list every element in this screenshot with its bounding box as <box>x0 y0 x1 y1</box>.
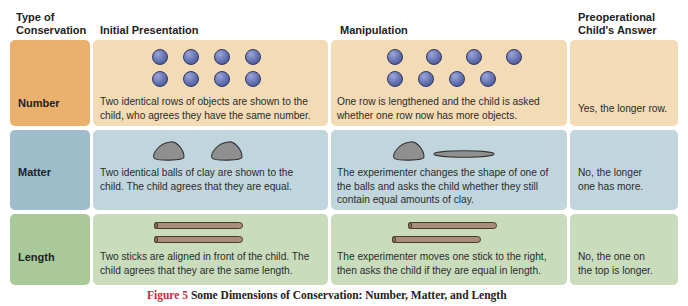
text-line: child agrees that they are the same leng… <box>100 264 309 278</box>
ball-icon <box>183 49 199 65</box>
answer-text-matter: No, the longer one has more. <box>578 166 643 193</box>
ball-icon <box>387 71 403 87</box>
text-line: child, who agrees they have the same num… <box>100 109 311 123</box>
text-line: No, the one on <box>578 250 653 264</box>
header-type-line1: Type of <box>16 11 86 24</box>
ball-icon <box>214 71 230 87</box>
text-line: the top is longer. <box>578 264 653 278</box>
manipulation-text-length: The experimenter moves one stick to the … <box>337 250 547 277</box>
ball-icon <box>245 71 261 87</box>
stick-icon <box>392 236 481 243</box>
text-line: contain equal amounts of clay. <box>337 193 548 207</box>
ball-icon <box>506 49 522 65</box>
clay-balls-initial-icon <box>150 137 260 162</box>
ball-icon <box>449 71 465 87</box>
clay-ball-and-flattened-icon <box>390 137 500 162</box>
ball-icon <box>418 71 434 87</box>
ball-icon <box>466 49 482 65</box>
text-line: Two identical rows of objects are shown … <box>100 95 311 109</box>
text-line: The experimenter changes the shape of on… <box>337 166 548 180</box>
header-childs-answer: Preoperational Child's Answer <box>578 11 657 37</box>
text-line: The experimenter moves one stick to the … <box>337 250 547 264</box>
ball-icon <box>387 49 403 65</box>
stick-icon <box>408 222 497 229</box>
header-initial-presentation: Initial Presentation <box>100 24 198 37</box>
text-line: the balls and asks the child whether the… <box>337 180 548 194</box>
manipulation-text-matter: The experimenter changes the shape of on… <box>337 166 548 207</box>
figure-caption: Figure 5 Some Dimensions of Conservation… <box>147 289 507 301</box>
ball-icon <box>152 71 168 87</box>
label-matter: Matter <box>18 166 51 178</box>
stick-icon <box>154 222 243 229</box>
label-number: Number <box>18 97 60 109</box>
header-type-line2: Conservation <box>16 24 86 37</box>
text-line: Two identical balls of clay are shown to… <box>100 166 293 180</box>
header-answer-line1: Preoperational <box>578 11 657 24</box>
initial-text-number: Two identical rows of objects are shown … <box>100 95 311 122</box>
ball-icon <box>183 71 199 87</box>
text-line: Yes, the longer row. <box>578 102 667 116</box>
manipulation-text-number: One row is lengthened and the child is a… <box>337 95 540 122</box>
text-line: then asks the child if they are equal in… <box>337 264 547 278</box>
text-line: child. The child agrees that they are eq… <box>100 180 293 194</box>
text-line: No, the longer <box>578 166 643 180</box>
header-manipulation: Manipulation <box>340 24 408 37</box>
text-line: One row is lengthened and the child is a… <box>337 95 540 109</box>
ball-icon <box>480 71 496 87</box>
label-cell-length <box>10 214 90 285</box>
answer-text-length: No, the one on the top is longer. <box>578 250 653 277</box>
header-type-of-conservation: Type of Conservation <box>16 11 86 37</box>
label-length: Length <box>18 251 55 263</box>
initial-text-length: Two sticks are aligned in front of the c… <box>100 250 309 277</box>
ball-icon <box>245 49 261 65</box>
text-line: whether one row now has more objects. <box>337 109 540 123</box>
text-line: one has more. <box>578 180 643 194</box>
ball-icon <box>426 49 442 65</box>
figure-label: Figure 5 <box>147 289 188 301</box>
figure-title: Some Dimensions of Conservation: Number,… <box>191 289 507 301</box>
initial-text-matter: Two identical balls of clay are shown to… <box>100 166 293 193</box>
label-cell-number <box>10 40 90 126</box>
text-line: Two sticks are aligned in front of the c… <box>100 250 309 264</box>
stick-icon <box>154 236 243 243</box>
header-answer-line2: Child's Answer <box>578 24 657 37</box>
answer-text-number: Yes, the longer row. <box>578 102 667 116</box>
ball-icon <box>214 49 230 65</box>
ball-icon <box>152 49 168 65</box>
